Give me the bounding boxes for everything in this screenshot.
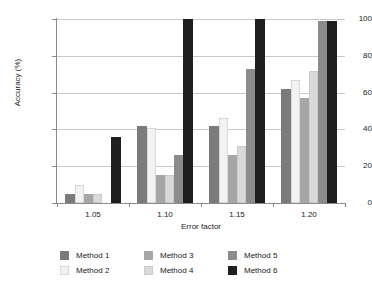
legend-column: Method 1Method 2 xyxy=(60,248,109,278)
bar-group xyxy=(57,19,129,203)
x-tick-mark xyxy=(345,203,346,207)
legend-item: Method 3 xyxy=(144,248,193,263)
bar xyxy=(93,194,102,203)
bar xyxy=(156,175,165,203)
bar xyxy=(219,118,228,203)
x-tick-label: 1.20 xyxy=(279,210,339,219)
bar-group xyxy=(129,19,201,203)
bar xyxy=(183,19,192,203)
x-tick-mark xyxy=(273,203,274,207)
legend-label: Method 4 xyxy=(160,266,193,275)
legend-swatch xyxy=(228,251,237,260)
bar xyxy=(327,21,336,203)
bar xyxy=(255,19,264,203)
bar xyxy=(137,126,146,203)
legend-item: Method 6 xyxy=(228,263,277,278)
legend-item: Method 5 xyxy=(228,248,277,263)
legend-swatch xyxy=(228,266,237,275)
legend-item: Method 1 xyxy=(60,248,109,263)
bar xyxy=(174,155,183,203)
bar xyxy=(147,128,156,203)
bar xyxy=(281,89,290,203)
x-axis-label: Error factor xyxy=(57,222,345,231)
bar xyxy=(318,21,327,203)
bar xyxy=(246,69,255,203)
bar xyxy=(209,126,218,203)
legend-item: Method 2 xyxy=(60,263,109,278)
bar xyxy=(300,98,309,203)
bar xyxy=(165,175,174,203)
x-tick-mark xyxy=(129,203,130,207)
chart-figure: Accuracy (%) 020406080100 1.051.101.151.… xyxy=(0,0,372,294)
legend-column: Method 3Method 4 xyxy=(144,248,193,278)
legend-swatch xyxy=(144,251,153,260)
bar-group xyxy=(201,19,273,203)
bar xyxy=(228,155,237,203)
plot-area xyxy=(57,19,345,203)
legend-label: Method 5 xyxy=(244,251,277,260)
legend-label: Method 3 xyxy=(160,251,193,260)
legend-swatch xyxy=(60,266,69,275)
legend-label: Method 1 xyxy=(76,251,109,260)
legend-label: Method 6 xyxy=(244,266,277,275)
bar xyxy=(84,194,93,203)
bar xyxy=(111,137,120,203)
x-tick-label: 1.10 xyxy=(135,210,195,219)
bar-group xyxy=(273,19,345,203)
bar xyxy=(291,80,300,203)
y-axis-label: Accuracy (%) xyxy=(13,28,22,138)
legend-swatch xyxy=(144,266,153,275)
bar xyxy=(75,185,84,203)
x-tick-label: 1.15 xyxy=(207,210,267,219)
x-tick-mark xyxy=(57,203,58,207)
legend-label: Method 2 xyxy=(76,266,109,275)
legend-swatch xyxy=(60,251,69,260)
x-tick-mark xyxy=(201,203,202,207)
legend-column: Method 5Method 6 xyxy=(228,248,277,278)
x-tick-label: 1.05 xyxy=(63,210,123,219)
bar xyxy=(309,71,318,203)
bar xyxy=(65,194,74,203)
bar xyxy=(237,146,246,203)
legend-item: Method 4 xyxy=(144,263,193,278)
